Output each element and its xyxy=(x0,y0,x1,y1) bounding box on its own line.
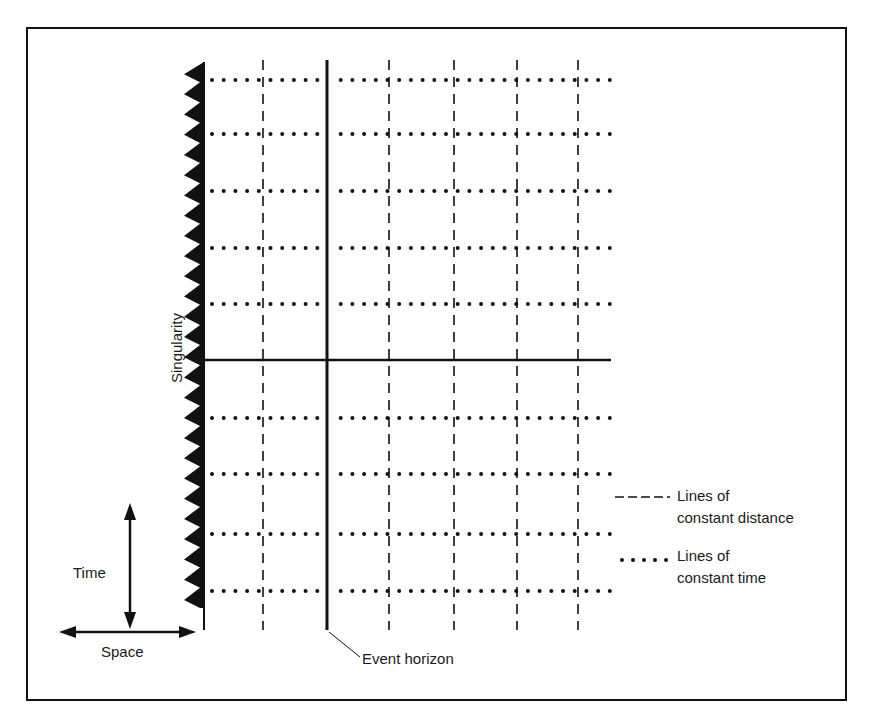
constant-time-line xyxy=(210,472,612,476)
constant-time-line xyxy=(210,416,612,420)
legend-item-constant-time: Lines of constant time xyxy=(677,545,766,589)
arrow-right-icon xyxy=(179,626,196,638)
constant-time-line xyxy=(210,302,612,306)
legend-line1: Lines of xyxy=(677,485,794,507)
arrow-down-icon xyxy=(124,612,136,629)
space-label: Space xyxy=(101,641,144,663)
legend-dotted-line-icon xyxy=(620,558,668,562)
event-horizon-label: Event horizon xyxy=(362,648,454,670)
constant-time-line xyxy=(210,246,612,250)
constant-time-line xyxy=(210,78,612,82)
arrow-left-icon xyxy=(59,626,76,638)
constant-time-line xyxy=(210,589,612,593)
arrow-up-icon xyxy=(124,503,136,520)
event-horizon-pointer xyxy=(329,632,360,657)
legend-line2: constant distance xyxy=(677,507,794,529)
constant-time-lines xyxy=(210,78,612,593)
singularity-label: Singularity xyxy=(166,313,188,383)
figure-border xyxy=(27,28,846,700)
constant-distance-lines xyxy=(263,60,578,630)
time-label: Time xyxy=(73,562,106,584)
legend-line1: Lines of xyxy=(677,545,766,567)
legend-glyphs xyxy=(615,497,670,562)
constant-time-line xyxy=(210,189,612,193)
constant-time-line xyxy=(210,132,612,136)
spacetime-diagram xyxy=(0,0,880,720)
legend-item-constant-distance: Lines of constant distance xyxy=(677,485,794,529)
legend-line2: constant time xyxy=(677,567,766,589)
constant-time-line xyxy=(210,532,612,536)
